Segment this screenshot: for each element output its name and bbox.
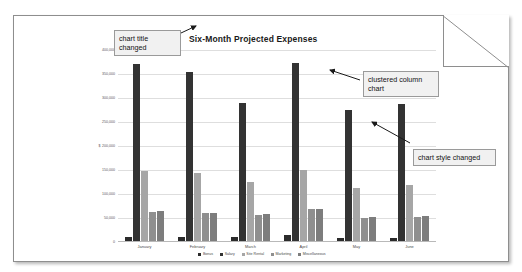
x-axis-category-label: May: [353, 244, 360, 249]
bar[interactable]: [369, 217, 376, 241]
bar[interactable]: [194, 173, 201, 241]
x-axis-category-label: April: [300, 244, 308, 249]
bar[interactable]: [141, 171, 148, 241]
bar[interactable]: [308, 209, 315, 241]
bar[interactable]: [406, 185, 413, 241]
callout-clustered-column-chart: clustered column chart: [363, 71, 439, 97]
legend-swatch: [198, 253, 201, 256]
bar[interactable]: [345, 110, 352, 241]
y-axis-tick-label: $200,000: [99, 144, 116, 148]
legend-label: Marketing: [275, 252, 291, 256]
currency-symbol: $: [99, 144, 101, 148]
callout-chart-title-changed: chart title changed: [114, 30, 181, 56]
y-axis-tick-label: 300,000: [102, 96, 115, 100]
bar[interactable]: [157, 211, 164, 241]
bar[interactable]: [353, 188, 360, 241]
bar[interactable]: [292, 63, 299, 241]
legend-swatch: [298, 253, 301, 256]
bar-cluster[interactable]: March: [231, 50, 270, 241]
bar[interactable]: [239, 103, 246, 241]
callout-chart-style-changed: chart style changed: [413, 149, 496, 166]
bar[interactable]: [284, 235, 291, 241]
bar[interactable]: [255, 215, 262, 241]
legend-item[interactable]: Miscellaneous: [298, 252, 325, 256]
legend-swatch: [242, 253, 245, 256]
bar[interactable]: [263, 214, 270, 241]
bar[interactable]: [149, 212, 156, 241]
x-axis-category-label: March: [245, 244, 256, 249]
bar[interactable]: [125, 237, 132, 241]
bar-cluster[interactable]: January: [125, 50, 164, 241]
bar[interactable]: [300, 170, 307, 241]
bar[interactable]: [422, 216, 429, 241]
bar[interactable]: [202, 213, 209, 241]
legend-label: Bonus: [203, 252, 213, 256]
document-page: Six-Month Projected Expenses JanuaryFebr…: [13, 15, 509, 262]
chart-legend[interactable]: BonusSalarySite RentalMarketingMiscellan…: [72, 252, 452, 256]
chart-container[interactable]: Six-Month Projected Expenses JanuaryFebr…: [72, 24, 452, 260]
legend-item[interactable]: Site Rental: [242, 252, 264, 256]
bar[interactable]: [398, 104, 405, 241]
legend-label: Site Rental: [246, 252, 264, 256]
y-axis-tick-label: 0: [113, 240, 115, 244]
y-axis-tick-label: 100,000: [102, 192, 115, 196]
legend-swatch: [271, 253, 274, 256]
legend-swatch: [220, 253, 223, 256]
legend-label: Miscellaneous: [303, 252, 326, 256]
bar-cluster[interactable]: April: [284, 50, 323, 241]
bar[interactable]: [210, 213, 217, 241]
bar[interactable]: [390, 238, 397, 241]
x-axis-category-label: February: [190, 244, 206, 249]
bar[interactable]: [178, 237, 185, 241]
legend-item[interactable]: Salary: [220, 252, 235, 256]
bar[interactable]: [361, 218, 368, 241]
x-axis-category-label: June: [405, 244, 413, 249]
legend-item[interactable]: Bonus: [198, 252, 213, 256]
bar[interactable]: [231, 237, 238, 241]
page-corner-fold: [443, 15, 509, 67]
bar-cluster[interactable]: February: [178, 50, 217, 241]
legend-label: Salary: [225, 252, 235, 256]
bar[interactable]: [186, 72, 193, 241]
y-axis-tick-label: 250,000: [102, 120, 115, 124]
y-axis-tick-label: 350,000: [102, 72, 115, 76]
x-axis-category-label: January: [138, 244, 152, 249]
y-axis-tick-label: 50,000: [104, 216, 115, 220]
y-axis-tick-label: 150,000: [102, 168, 115, 172]
bar[interactable]: [414, 217, 421, 241]
legend-item[interactable]: Marketing: [271, 252, 291, 256]
bar[interactable]: [316, 209, 323, 241]
chart-title: Six-Month Projected Expenses: [189, 34, 317, 44]
bar[interactable]: [337, 238, 344, 241]
bar[interactable]: [247, 182, 254, 241]
bar[interactable]: [133, 64, 140, 241]
